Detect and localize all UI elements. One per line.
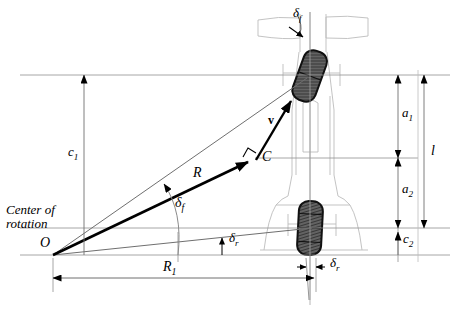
delta-r-bottom-subscript: r [336,263,340,273]
construction-lines [20,12,450,305]
delta-f-arc-label: δf [175,196,184,213]
right-angle-marker [243,148,256,157]
delta-f-top-label: δf [293,6,302,23]
turn-radius-vector [53,162,248,255]
ray-origin-to-front-wheel [53,78,307,255]
dim-R1-symbol: R [163,259,172,274]
delta-r-indicator-bottom [297,258,325,300]
kinematic-turning-diagram: Center of rotation O C v R δf δf δr δr c… [0,0,457,309]
origin-point-label: O [40,236,50,251]
delta-r-mid-subscript: r [235,238,239,248]
dim-c2-subscript: 2 [409,239,414,249]
delta-f-arc-subscript: f [182,202,185,213]
center-of-rotation-line2: rotation [6,216,47,231]
dim-c1-subscript: 1 [74,152,79,162]
dimension-l-label: l [431,144,435,159]
velocity-vector-label: v [268,114,274,127]
delta-r-mid-label: δr [229,231,239,248]
dimension-a2-label: a2 [402,182,413,199]
dim-R1-subscript: 1 [172,266,177,277]
center-of-rotation-label: Center of rotation [6,203,55,230]
dimension-R1-label: R1 [163,260,176,277]
dim-a2-subscript: 2 [409,189,414,199]
dimension-c2-label: c2 [403,232,413,249]
turn-radius-label: R [193,166,202,181]
delta-f-top-subscript: f [299,13,302,23]
dimension-c1-label: c1 [68,145,78,162]
mass-center-point-label: C [262,150,271,165]
dimension-a1-label: a1 [402,106,413,123]
ray-origin-to-rear-axle [53,228,312,255]
delta-r-bottom-label: δr [330,256,340,273]
dim-a1-subscript: 1 [409,113,414,123]
